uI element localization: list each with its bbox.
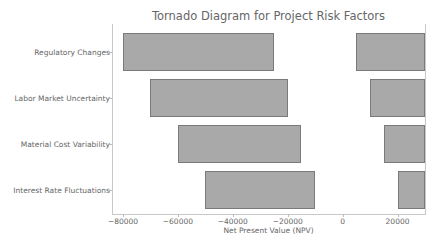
left-spine — [112, 24, 113, 215]
x-tick-label: −80000 — [108, 217, 138, 226]
bottom-spine — [112, 214, 426, 215]
y-tick-label: Labor Market Uncertainty — [14, 94, 110, 103]
x-tick-label: −60000 — [163, 217, 193, 226]
bar-downside-0 — [123, 33, 274, 71]
y-tick-label: Material Cost Variability — [21, 140, 110, 149]
x-tick-label: −40000 — [218, 217, 248, 226]
tornado-chart: Tornado Diagram for Project Risk Factors… — [0, 0, 447, 247]
y-tick-mark — [109, 190, 112, 191]
y-tick-mark — [109, 52, 112, 53]
bar-upside-0 — [356, 33, 425, 71]
bar-downside-3 — [205, 171, 315, 209]
right-spine — [425, 24, 426, 215]
x-tick-label: 20000 — [386, 217, 410, 226]
y-tick-mark — [109, 98, 112, 99]
x-tick-label: −20000 — [273, 217, 303, 226]
chart-title: Tornado Diagram for Project Risk Factors — [112, 9, 425, 23]
y-tick-label: Interest Rate Fluctuations — [13, 186, 110, 195]
bar-upside-2 — [384, 125, 425, 163]
y-tick-label: Regulatory Changes — [34, 48, 110, 57]
x-axis-label: Net Present Value (NPV) — [112, 226, 425, 235]
bar-downside-1 — [150, 79, 287, 117]
bar-upside-3 — [398, 171, 425, 209]
x-tick-label: 0 — [340, 217, 345, 226]
bar-downside-2 — [178, 125, 302, 163]
y-tick-mark — [109, 144, 112, 145]
bar-upside-1 — [370, 79, 425, 117]
